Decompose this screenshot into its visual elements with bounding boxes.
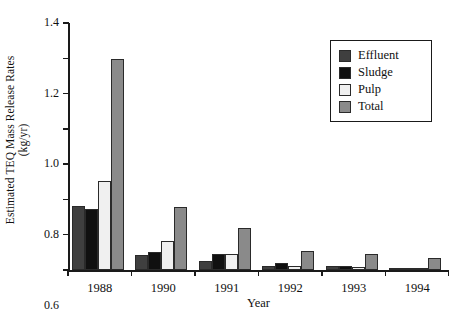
legend-label: Pulp <box>358 83 381 96</box>
y-tick: 0.4 <box>63 199 69 201</box>
x-tick <box>194 270 196 276</box>
x-tick <box>385 270 387 276</box>
bar-sludge-1992 <box>275 263 288 270</box>
x-axis-title: Year <box>68 296 449 311</box>
bar-effluent-1990 <box>135 255 148 270</box>
y-tick: 1.2 <box>63 58 69 60</box>
bar-total-1992 <box>301 251 314 270</box>
bar-total-1993 <box>365 254 378 270</box>
bar-effluent-1992 <box>262 266 275 270</box>
legend-item-pulp: Pulp <box>339 81 424 98</box>
bar-effluent-1988 <box>72 206 85 270</box>
x-tick-label: 1994 <box>405 281 430 296</box>
bar-pulp-1994 <box>415 268 428 270</box>
bar-sludge-1988 <box>85 209 98 270</box>
chart-legend: EffluentSludgePulpTotal <box>330 40 432 122</box>
x-tick-label: 1993 <box>341 281 366 296</box>
y-axis-title-units: (kg/yr) <box>17 56 30 224</box>
legend-label: Effluent <box>358 49 399 62</box>
legend-swatch-effluent <box>339 50 351 62</box>
legend-item-effluent: Effluent <box>339 47 424 64</box>
legend-swatch-sludge <box>339 67 351 79</box>
bar-sludge-1993 <box>339 266 352 270</box>
y-tick: 0.6 <box>63 163 69 165</box>
bar-sludge-1994 <box>402 268 415 270</box>
y-axis-line <box>68 23 70 270</box>
y-tick: 0.2 <box>63 234 69 236</box>
y-tick-label: 0.8 <box>44 226 59 241</box>
legend-swatch-pulp <box>339 84 351 96</box>
bar-total-1991 <box>238 228 251 270</box>
x-tick <box>131 270 133 276</box>
x-tick-label: 1988 <box>87 281 112 296</box>
y-tick-label: 0.6 <box>44 297 59 312</box>
bar-chart-figure: Estimated TEQ Mass Release Rates (kg/yr)… <box>0 0 453 325</box>
legend-item-total: Total <box>339 98 424 115</box>
y-axis-title-line1: Estimated TEQ Mass Release Rates <box>4 56 16 224</box>
x-tick-label: 1990 <box>151 281 176 296</box>
x-tick <box>448 270 450 276</box>
x-tick-label: 1992 <box>278 281 303 296</box>
bar-sludge-1990 <box>148 252 161 270</box>
x-tick-label: 1991 <box>214 281 239 296</box>
bar-total-1988 <box>111 59 124 270</box>
bar-sludge-1991 <box>212 254 225 270</box>
bar-effluent-1991 <box>199 261 212 270</box>
bar-pulp-1991 <box>225 254 238 270</box>
bar-pulp-1990 <box>161 241 174 270</box>
y-tick: 0.8 <box>63 128 69 130</box>
bar-total-1994 <box>428 258 441 270</box>
y-tick-label: 1.0 <box>44 156 59 171</box>
legend-label: Total <box>358 100 384 113</box>
y-tick-label: 1.2 <box>44 85 59 100</box>
bar-effluent-1993 <box>326 266 339 270</box>
legend-swatch-total <box>339 101 351 113</box>
legend-item-sludge: Sludge <box>339 64 424 81</box>
x-tick <box>258 270 260 276</box>
y-tick: 1.0 <box>63 93 69 95</box>
bar-pulp-1988 <box>98 181 111 270</box>
y-tick-label: 1.4 <box>44 15 59 30</box>
x-tick <box>321 270 323 276</box>
bar-pulp-1993 <box>352 267 365 270</box>
y-tick: 1.4 <box>63 22 69 24</box>
y-axis-title: Estimated TEQ Mass Release Rates (kg/yr) <box>0 0 34 280</box>
bar-total-1990 <box>174 207 187 271</box>
x-tick <box>67 270 69 276</box>
legend-label: Sludge <box>358 66 393 79</box>
bar-effluent-1994 <box>389 268 402 270</box>
bar-pulp-1992 <box>288 266 301 270</box>
